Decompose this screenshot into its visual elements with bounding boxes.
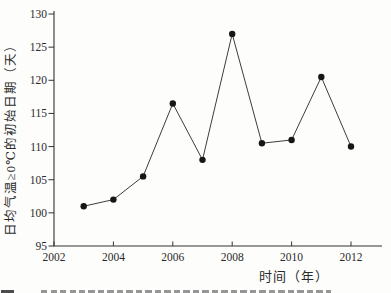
data-point	[229, 31, 235, 37]
y-axis-title: 日均气温≥0℃的初始日期（天）	[3, 38, 18, 236]
x-tick-label: 2006	[161, 251, 184, 263]
x-axis-title: 时间（年）	[259, 269, 329, 284]
y-tick-label: 125	[30, 41, 48, 53]
data-point	[259, 140, 265, 146]
data-point	[288, 137, 294, 143]
y-tick-label: 105	[30, 174, 48, 186]
truncated-caption-lead-glyph	[1, 290, 14, 293]
data-point	[110, 196, 116, 202]
y-tick-label: 115	[30, 107, 47, 119]
truncated-caption-text-tops	[41, 290, 331, 293]
y-tick-label: 110	[30, 141, 47, 153]
axes-layer: 9510010511011512012513020022004200620082…	[30, 8, 382, 263]
data-point	[170, 100, 176, 106]
data-point	[81, 203, 87, 209]
data-point	[348, 143, 354, 149]
x-tick-label: 2002	[43, 251, 66, 263]
data-point	[140, 173, 146, 179]
chart-figure: 9510010511011512012513020022004200620082…	[0, 0, 391, 293]
data-point	[318, 74, 324, 80]
y-tick-label: 100	[30, 207, 48, 219]
line-chart: 9510010511011512012513020022004200620082…	[0, 0, 391, 293]
x-tick-label: 2008	[221, 251, 244, 263]
data-point	[199, 157, 205, 163]
x-tick-label: 2010	[280, 251, 303, 263]
series-line	[84, 34, 351, 206]
truncated-caption	[0, 288, 391, 293]
x-tick-label: 2012	[340, 251, 363, 263]
y-tick-label: 130	[30, 8, 48, 20]
y-tick-label: 120	[30, 74, 48, 86]
x-tick-label: 2004	[102, 251, 125, 263]
axes	[54, 11, 382, 246]
data-series	[81, 31, 355, 210]
